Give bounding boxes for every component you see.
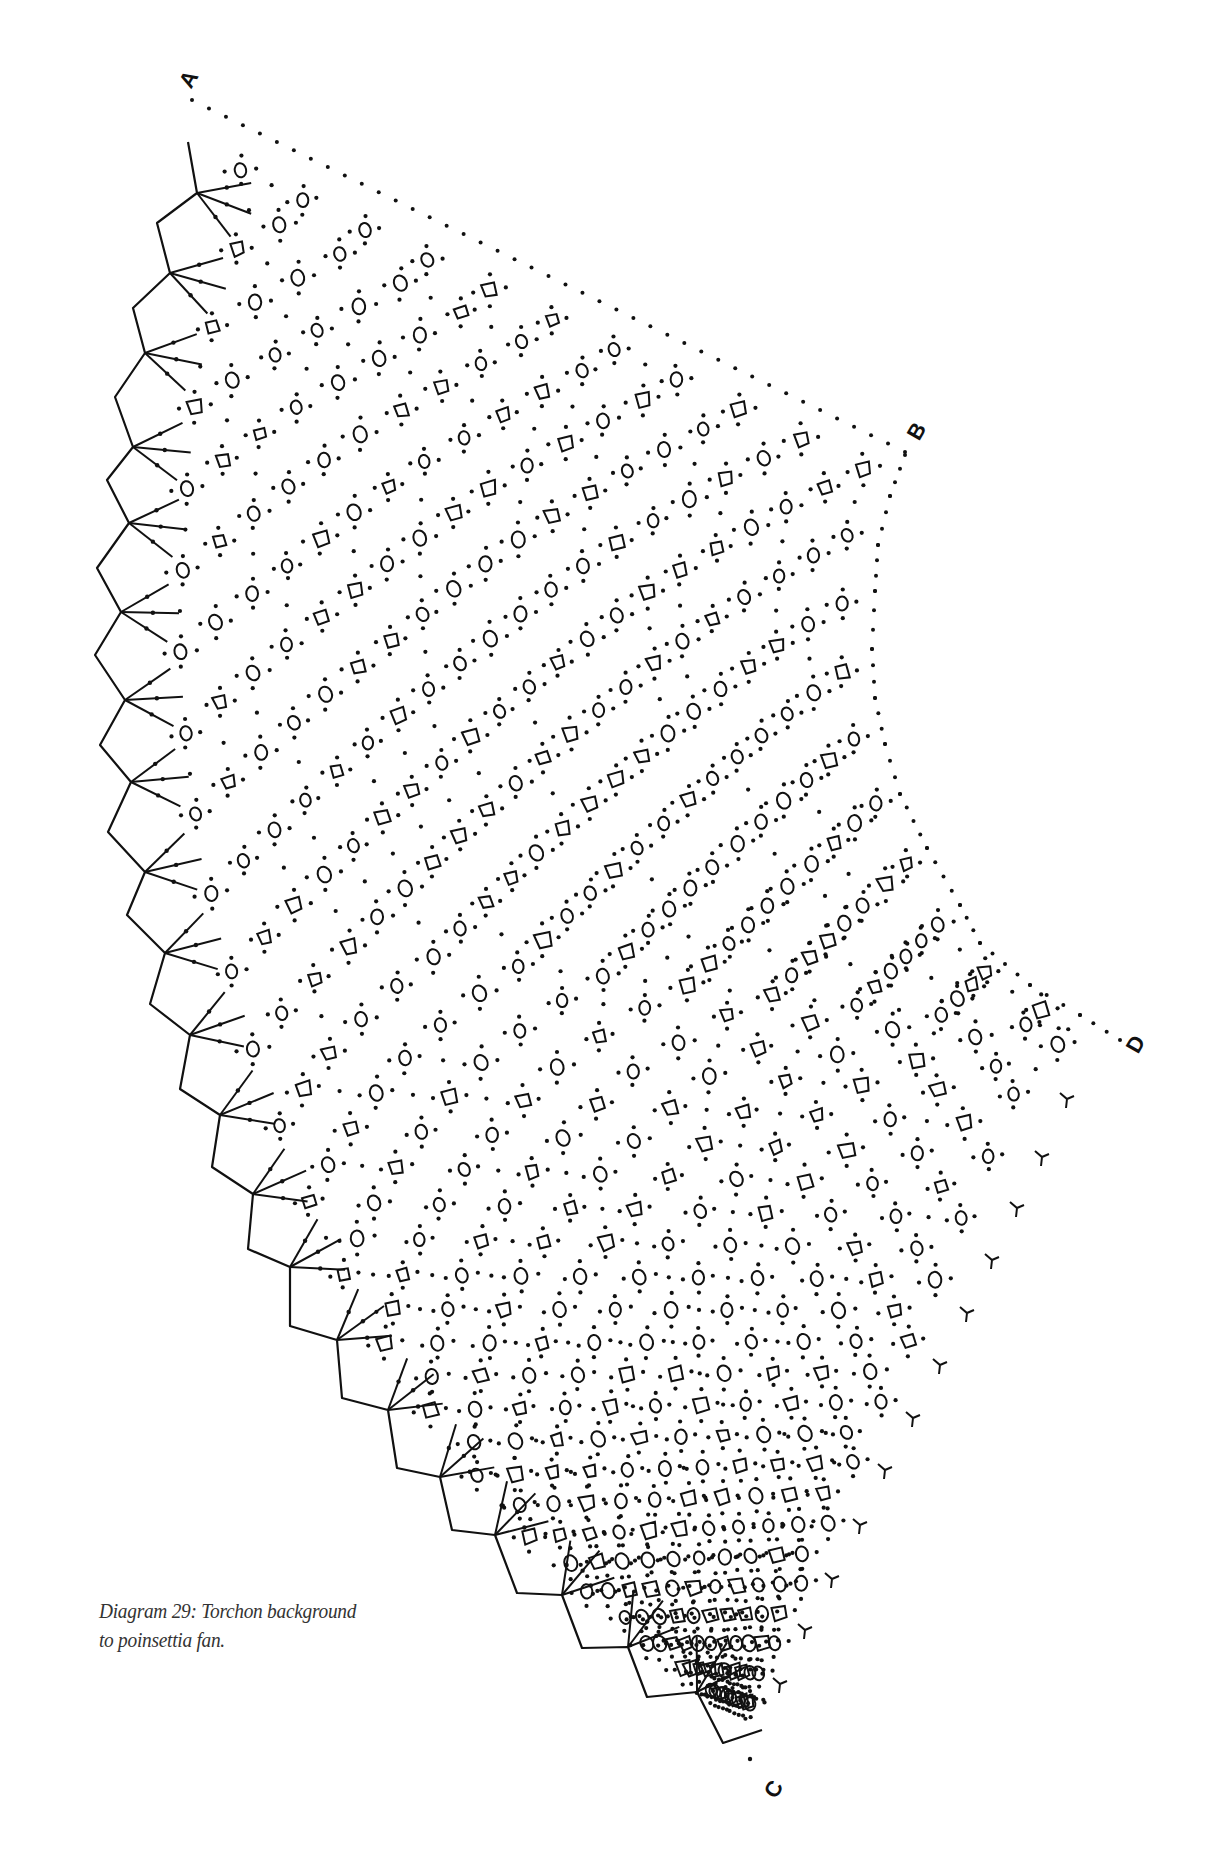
pin-cell (536, 1337, 549, 1351)
pin-cell (625, 1132, 642, 1150)
pin-cell (613, 1551, 631, 1571)
pin-cell (254, 428, 266, 440)
y-mark (985, 1254, 999, 1269)
pin-cell (514, 606, 527, 622)
pin-cell (619, 1367, 634, 1383)
pin-cell (673, 562, 686, 577)
pin-cell (702, 956, 717, 972)
pin-cell (299, 793, 312, 808)
y-mark (960, 1307, 974, 1322)
pin-cell (769, 639, 783, 652)
pin-cell (704, 1636, 717, 1652)
pin-cell (611, 1524, 626, 1541)
y-mark (1010, 1202, 1024, 1217)
pin-cell (774, 569, 785, 582)
pin-cell (775, 791, 793, 811)
pin-cell (456, 1161, 472, 1178)
pin-cell (901, 857, 912, 871)
pin-cell (665, 1550, 682, 1568)
pin-cell (627, 1202, 642, 1216)
pin-cell (330, 373, 346, 391)
pin-cell (418, 454, 431, 469)
pin-cell (221, 775, 235, 789)
pin-cell (371, 909, 383, 924)
pin-cell (711, 541, 724, 555)
pin-cell (374, 810, 390, 824)
pin-cell (507, 1467, 523, 1483)
pin-cell (244, 664, 262, 683)
pin-cell (693, 1335, 705, 1350)
pin-cell (513, 1402, 526, 1415)
picot-rays (165, 913, 221, 969)
pin-cell (556, 994, 568, 1008)
pin-cell (498, 1199, 511, 1214)
pin-cell (281, 559, 293, 574)
pin-cell (371, 349, 387, 367)
pin-cell (681, 1490, 696, 1506)
pin-cell (636, 392, 650, 408)
pin-cell (481, 283, 497, 297)
pin-cell (830, 1046, 844, 1063)
pin-cell (537, 1235, 550, 1249)
pin-cell (514, 333, 529, 350)
pin-cell (187, 399, 202, 414)
pin-cell (454, 306, 469, 319)
pin-cell (794, 432, 809, 447)
pin-cell (899, 949, 912, 964)
pin-cell (583, 485, 598, 500)
pin-cell (631, 1431, 647, 1444)
pin-cell (590, 1097, 605, 1112)
pin-cell (385, 1301, 399, 1316)
pin-cell (930, 916, 946, 933)
corner-label-c: C (759, 1776, 789, 1802)
pin-cell (411, 529, 428, 548)
pin-cell (854, 1078, 869, 1093)
pin-cell (513, 1023, 527, 1039)
pin-cell (313, 531, 329, 548)
corner-label-a: A (174, 66, 204, 92)
pin-cell (592, 703, 604, 718)
pin-cell (949, 989, 967, 1008)
pin-cell (481, 480, 495, 497)
pin-cell (1033, 1001, 1050, 1018)
pin-cell (837, 914, 853, 932)
pin-cell (492, 703, 507, 719)
pin-cell (730, 749, 745, 765)
pin-cell (818, 480, 832, 494)
pin-cell (682, 491, 696, 508)
pin-cell (598, 1234, 614, 1251)
pin-cell (318, 452, 331, 468)
pin-cell (780, 706, 795, 722)
caption-line-1: Diagram 29: Torchon background (99, 1596, 398, 1625)
pin-cell (587, 1334, 601, 1350)
pin-cell (661, 1236, 676, 1252)
pin-cell (504, 871, 517, 885)
pin-cell (479, 802, 494, 816)
y-mark (1060, 1093, 1074, 1108)
pin-cell (609, 535, 624, 550)
picot-rays (133, 423, 191, 480)
pin-cell (462, 729, 479, 745)
pin-cell (414, 1233, 426, 1247)
pin-cell (874, 1394, 888, 1410)
pricking-grid (163, 153, 1077, 1720)
pin-cell (280, 637, 292, 652)
pin-cell (581, 796, 597, 811)
pin-cell (382, 480, 395, 494)
pin-cell (639, 1333, 655, 1351)
pin-cell (820, 934, 836, 948)
pin-cell (515, 1094, 531, 1107)
pin-cell (759, 1206, 773, 1221)
pin-cell (285, 897, 301, 914)
pin-cell (847, 1242, 862, 1255)
picot-rays (337, 1289, 392, 1340)
pin-cell (473, 1368, 489, 1382)
pin-cell (729, 1635, 743, 1651)
pin-cell (750, 1270, 765, 1287)
pin-cell (648, 1492, 661, 1508)
pin-cell (835, 664, 849, 678)
pin-cell (472, 1053, 490, 1073)
pin-cell (558, 436, 573, 452)
pin-cell (396, 1268, 409, 1281)
pin-cell (901, 1334, 916, 1348)
